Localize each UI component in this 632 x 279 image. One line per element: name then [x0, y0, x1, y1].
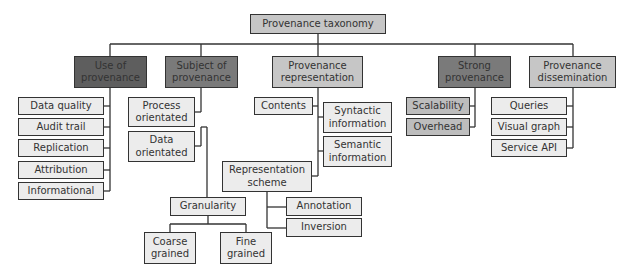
- leaf-fine-grained: Fine grained: [220, 232, 272, 264]
- leaf-contents: Contents: [254, 97, 313, 115]
- leaf-data-orientated: Data orientated: [128, 131, 195, 162]
- leaf-replication: Replication: [18, 139, 104, 157]
- leaf-data-quality: Data quality: [18, 97, 104, 115]
- category-provenance-dissemination: Provenance dissemination: [529, 56, 616, 88]
- leaf-service-api: Service API: [491, 139, 567, 157]
- leaf-attribution: Attribution: [18, 161, 104, 179]
- leaf-queries: Queries: [491, 97, 567, 115]
- leaf-inversion: Inversion: [286, 218, 362, 237]
- leaf-coarse-grained: Coarse grained: [144, 232, 196, 264]
- leaf-informational: Informational: [18, 182, 104, 200]
- leaf-overhead: Overhead: [406, 118, 470, 136]
- leaf-process-orientated: Process orientated: [128, 97, 195, 127]
- category-subject-of-provenance: Subject of provenance: [165, 56, 238, 88]
- category-use-of-provenance: Use of provenance: [74, 56, 147, 88]
- category-strong-provenance: Strong provenance: [438, 56, 511, 88]
- root-node: Provenance taxonomy: [250, 14, 386, 34]
- category-provenance-representation: Provenance representation: [272, 56, 363, 88]
- leaf-syntactic-information: Syntactic information: [323, 102, 392, 133]
- leaf-audit-trail: Audit trail: [18, 118, 104, 136]
- leaf-annotation: Annotation: [286, 197, 362, 216]
- node-granularity: Granularity: [170, 197, 246, 216]
- node-representation-scheme: Representation scheme: [222, 161, 312, 192]
- leaf-visual-graph: Visual graph: [491, 118, 567, 136]
- leaf-scalability: Scalability: [406, 97, 470, 115]
- leaf-semantic-information: Semantic information: [323, 136, 392, 167]
